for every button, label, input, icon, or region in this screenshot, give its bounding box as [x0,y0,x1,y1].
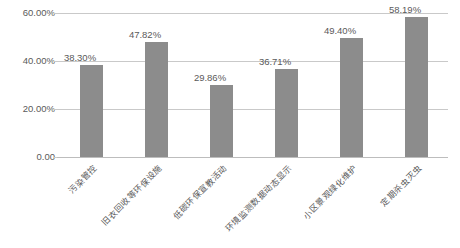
x-axis-label-4: 小区景观绿化维护 [301,163,359,221]
bar-0[interactable] [80,65,103,157]
y-axis-tick-label: 20.00% [3,104,55,114]
bar-value-label-2: 29.86% [175,72,245,83]
bar-2[interactable] [210,85,233,157]
bar-chart: 60.00% 40.00% 20.00% 0.00 38.30% 47.82% … [0,0,460,248]
bar-value-label-0: 38.30% [45,52,115,63]
gridline-axis-0 [57,157,448,158]
bar-3[interactable] [275,69,298,157]
y-axis-tick-label: 0.00 [3,152,55,162]
bar-value-label-3: 36.71% [240,56,310,67]
x-axis-label-0: 污染管控 [67,163,100,196]
bar-1[interactable] [145,42,168,157]
x-axis-label-3: 环境监测数据动态显示 [223,163,294,234]
bar-value-label-4: 49.40% [305,25,375,36]
bar-value-label-1: 47.82% [110,29,180,40]
y-axis: 60.00% 40.00% 20.00% 0.00 [0,13,55,157]
bar-4[interactable] [340,38,363,157]
x-axis-label-1: 旧衣回收等环保设施 [100,163,164,227]
bar-5[interactable] [405,17,428,157]
x-axis-label-5: 定期杀虫灭虫 [379,163,424,208]
y-axis-tick-label: 60.00% [3,8,55,18]
bar-value-label-5: 58.19% [370,4,440,15]
x-axis-label-2: 低碳环保宣教活动 [171,163,229,221]
gridline-20 [57,109,448,110]
